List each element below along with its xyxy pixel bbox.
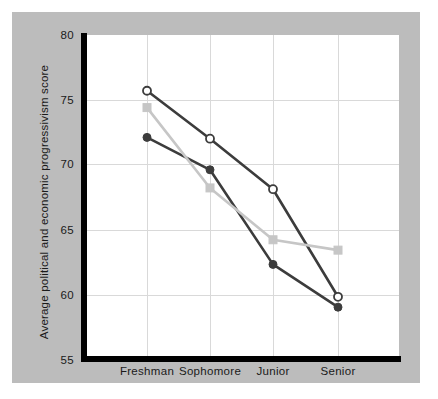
y-tick-label-60: 60 <box>48 288 74 302</box>
y-tick-text: 60 <box>48 288 74 302</box>
y-tick-text: 55 <box>48 353 74 367</box>
gridline-y-75 <box>86 100 399 101</box>
x-axis-spine <box>81 356 401 362</box>
x-tick-label-senior: Senior <box>283 365 393 377</box>
y-axis-spine <box>81 33 87 362</box>
gridline-y-60 <box>86 295 399 296</box>
plot-area <box>86 35 399 360</box>
y-tick-text: 80 <box>48 28 74 42</box>
gridline-x-sophomore <box>210 35 211 360</box>
y-tick-label-55: 55 <box>48 353 74 367</box>
y-tick-label-65: 65 <box>48 223 74 237</box>
y-tick-label-70: 70 <box>48 157 74 171</box>
gridline-x-senior <box>338 35 339 360</box>
y-tick-text: 75 <box>48 93 74 107</box>
gridline-y-70 <box>86 164 399 165</box>
gridline-x-junior <box>273 35 274 360</box>
gridline-x-freshman <box>147 35 148 360</box>
y-axis-title: Average political and economic progressi… <box>38 52 50 352</box>
y-tick-label-75: 75 <box>48 93 74 107</box>
y-tick-text: 70 <box>48 157 74 171</box>
gridline-y-65 <box>86 230 399 231</box>
y-tick-text: 65 <box>48 223 74 237</box>
chart-figure: 80 75 70 65 60 55 Freshman Sophomore Jun… <box>0 0 438 399</box>
y-tick-label-80: 80 <box>48 28 74 42</box>
